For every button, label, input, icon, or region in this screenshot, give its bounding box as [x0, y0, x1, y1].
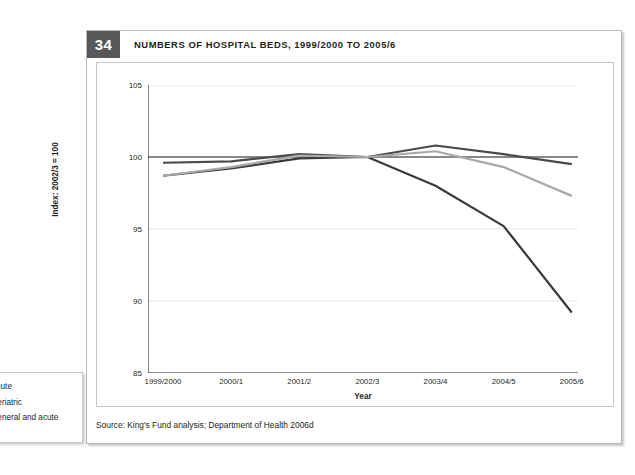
legend-item-general-and-acute[interactable]: General and acute — [0, 413, 82, 424]
x-tick-label-0: 1999/2000 — [145, 377, 182, 386]
y-tick-label-100: 100 — [112, 153, 142, 162]
chart-plot-svg — [148, 85, 578, 373]
y-axis-tick-labels: 859095100105 — [108, 85, 142, 373]
x-tick-label-2: 2001/2 — [287, 377, 311, 386]
gridlines — [148, 85, 578, 301]
figure-title: NUMBERS OF HOSPITAL BEDS, 1999/2000 TO 2… — [120, 31, 621, 58]
legend-item-acute[interactable]: Acute — [0, 382, 82, 393]
y-axis-title: Index: 2002/3 = 100 — [51, 95, 60, 265]
legend-label: Acute — [0, 382, 12, 393]
y-tick-label-105: 105 — [112, 81, 142, 90]
x-axis-title: Year — [148, 392, 578, 401]
series-line-acute — [163, 145, 572, 164]
legend-label: Geriatric — [0, 398, 22, 409]
x-tick-label-6: 2005/6 — [560, 377, 584, 386]
legend-label: General and acute — [0, 413, 58, 424]
x-tick-label-5: 2004/5 — [492, 377, 516, 386]
figure-header: 34 NUMBERS OF HOSPITAL BEDS, 1999/2000 T… — [87, 31, 621, 58]
x-tick-label-3: 2002/3 — [355, 377, 379, 386]
figure-number-badge: 34 — [87, 31, 120, 58]
figure-source: Source: King's Fund analysis; Department… — [96, 415, 614, 435]
series-line-general-and-acute — [163, 151, 572, 196]
x-tick-label-1: 2000/1 — [219, 377, 243, 386]
legend-item-geriatric[interactable]: Geriatric — [0, 398, 82, 409]
x-tick-label-4: 2003/4 — [424, 377, 448, 386]
y-tick-label-95: 95 — [112, 225, 142, 234]
y-tick-label-85: 85 — [112, 369, 142, 378]
y-tick-label-90: 90 — [112, 297, 142, 306]
plot-area — [148, 85, 578, 373]
chart-legend: AcuteGeriatricGeneral and acute — [0, 372, 83, 443]
series-line-geriatric — [163, 157, 572, 313]
x-axis-tick-labels: 1999/20002000/12001/22002/32003/42004/52… — [148, 377, 578, 391]
